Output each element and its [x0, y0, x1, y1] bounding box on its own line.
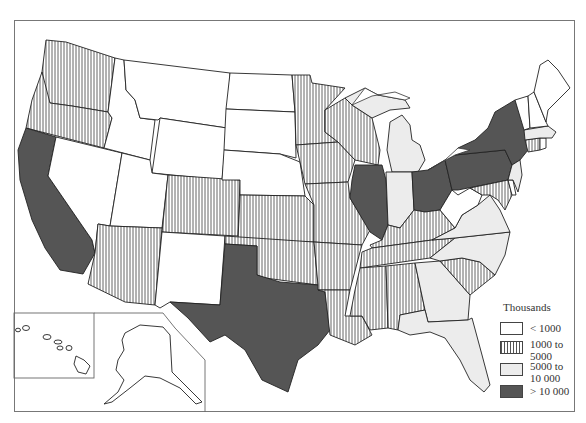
state-michigan-lower	[387, 115, 425, 172]
legend-swatch	[500, 322, 523, 335]
state-arizona	[88, 224, 162, 305]
state-rhode-island	[540, 138, 546, 150]
legend-label: 1000 to 5000	[530, 338, 563, 362]
state-new-mexico	[155, 232, 225, 308]
state-washington	[42, 40, 115, 112]
legend-label: < 1000	[530, 322, 561, 334]
hawaii-islands	[16, 326, 91, 375]
state-alaska	[104, 325, 202, 404]
legend-label-line1: 1000 to	[530, 338, 563, 350]
legend-label-line1: 5000 to	[530, 360, 563, 372]
legend-label-line2: 10 000	[530, 372, 563, 384]
state-kansas	[238, 195, 314, 242]
us-map	[0, 0, 586, 423]
state-florida	[398, 310, 490, 392]
legend-swatch	[500, 385, 523, 398]
legend-label: 5000 to 10 000	[530, 360, 563, 384]
state-north-dakota	[226, 73, 295, 112]
state-montana	[124, 60, 230, 128]
state-colorado	[162, 175, 240, 236]
legend-swatch	[500, 341, 523, 354]
legend-label: > 10 000	[530, 385, 569, 397]
state-wyoming	[152, 118, 227, 180]
state-arkansas	[314, 242, 362, 290]
legend-swatch	[500, 363, 523, 376]
legend-title: Thousands	[503, 301, 551, 313]
